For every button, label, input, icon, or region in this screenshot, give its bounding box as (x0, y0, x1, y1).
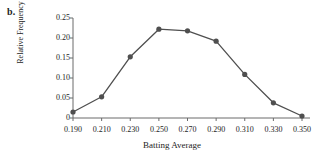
figure-panel-b: b. Relative Frequency 00.050.100.150.200… (0, 0, 318, 162)
x-axis-tick-label: 0.350 (282, 125, 318, 134)
x-axis-title: Batting Average (0, 140, 318, 150)
x-axis-tick-labels: 0.1900.2100.2300.2500.2700.2900.3100.330… (0, 0, 318, 162)
